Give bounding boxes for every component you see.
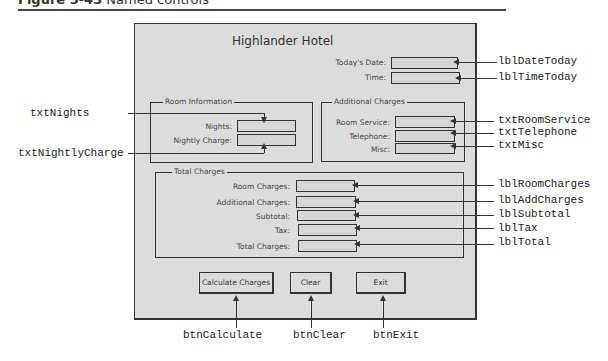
total-charges-output: [298, 240, 357, 252]
annotation-lblTotal: lblTotal: [498, 236, 551, 248]
arrow-up-icon: [233, 295, 239, 301]
room-info-group-label: Room Information: [163, 97, 234, 106]
leader-line: [456, 121, 494, 122]
figure-caption: Figure 5-43 Named controls: [18, 0, 209, 7]
leader-line: [356, 185, 494, 186]
leader-line: [456, 133, 494, 134]
time-label: Time:: [300, 73, 386, 82]
leader-line: [459, 62, 497, 63]
time-today-label-box: [391, 72, 460, 84]
leader-line: [456, 146, 494, 147]
exit-button-label: Exit: [373, 278, 387, 287]
annotation-btnCalculate: btnCalculate: [183, 329, 262, 341]
leader-line: [383, 300, 384, 328]
misc-input[interactable]: [395, 143, 455, 154]
annotation-lblRoomCharges: lblRoomCharges: [498, 178, 590, 190]
leader-line: [128, 153, 264, 154]
tax-output: [298, 224, 357, 236]
leader-line: [461, 78, 497, 79]
annotation-btnExit: btnExit: [373, 329, 419, 341]
leader-line: [128, 113, 264, 114]
arrow-left-icon: [352, 182, 358, 188]
annotation-txtTelephone: txtTelephone: [498, 126, 577, 138]
total-charges-label: Total Charges:: [190, 242, 290, 251]
leader-line: [311, 300, 312, 328]
annotation-lblSubtotal: lblSubtotal: [498, 208, 571, 220]
subtotal-label: Subtotal:: [190, 212, 290, 221]
leader-line: [236, 300, 237, 328]
calculate-button-label: Calculate Charges: [202, 278, 270, 287]
exit-button[interactable]: Exit: [356, 272, 406, 294]
caption-rule: [18, 9, 506, 11]
date-label: Today's Date:: [300, 58, 386, 67]
arrow-up-icon: [261, 143, 267, 149]
arrow-left-icon: [453, 59, 459, 65]
arrow-left-icon: [354, 241, 360, 247]
annotation-lblDateToday: lblDateToday: [498, 55, 577, 67]
clear-button-label: Clear: [301, 278, 321, 287]
room-charges-label: Room Charges:: [190, 182, 290, 191]
additional-charges-label: Additional Charges:: [190, 198, 290, 207]
total-charges-group-label: Total Charges: [172, 167, 227, 176]
telephone-input[interactable]: [395, 130, 455, 142]
leader-line: [358, 228, 494, 229]
arrow-left-icon: [354, 225, 360, 231]
arrow-left-icon: [450, 130, 456, 136]
arrow-up-icon: [380, 295, 386, 301]
arrow-left-icon: [455, 75, 461, 81]
annotation-lblTax: lblTax: [498, 222, 538, 234]
annotation-lblAddCharges: lblAddCharges: [498, 194, 584, 206]
leader-line: [357, 201, 494, 202]
figure-number: Figure 5-43: [18, 0, 102, 7]
arrow-left-icon: [353, 198, 359, 204]
arrow-left-icon: [450, 143, 456, 149]
form-title: Highlander Hotel: [232, 34, 333, 48]
additional-charges-group-label: Additional Charges: [332, 97, 407, 106]
misc-label: Misc:: [322, 145, 390, 154]
subtotal-output: [297, 210, 356, 221]
date-today-label-box: [391, 57, 458, 69]
annotation-txtNights: txtNights: [30, 107, 89, 119]
figure-caption-text: Named controls: [106, 0, 209, 7]
arrow-left-icon: [353, 212, 359, 218]
arrow-left-icon: [450, 118, 456, 124]
nightly-charge-label: Nightly Charge:: [160, 136, 232, 145]
arrow-up-icon: [308, 295, 314, 301]
arrow-down-icon: [261, 117, 267, 123]
annotation-btnClear: btnClear: [293, 329, 346, 341]
leader-line: [357, 215, 494, 216]
annotation-txtMisc: txtMisc: [498, 139, 544, 151]
leader-line: [358, 244, 494, 245]
nights-label: Nights:: [160, 122, 232, 131]
telephone-label: Telephone:: [322, 132, 390, 141]
room-service-input[interactable]: [395, 116, 455, 128]
annotation-txtNightlyCharge: txtNightlyCharge: [18, 147, 124, 159]
calculate-charges-button[interactable]: Calculate Charges: [199, 272, 274, 294]
room-charges-output: [296, 180, 355, 192]
clear-button[interactable]: Clear: [290, 272, 332, 294]
additional-charges-output: [296, 196, 356, 208]
room-service-label: Room Service:: [322, 118, 390, 127]
tax-label: Tax:: [190, 226, 290, 235]
annotation-txtRoomService: txtRoomService: [498, 114, 590, 126]
annotation-lblTimeToday: lblTimeToday: [498, 71, 577, 83]
